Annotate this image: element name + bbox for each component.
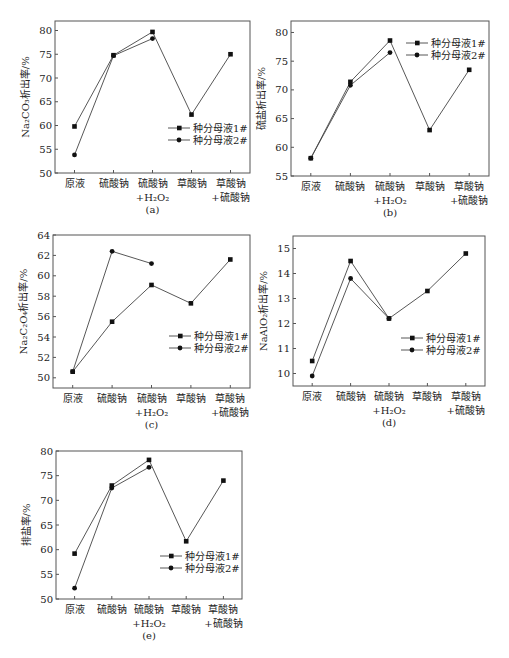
data-point-square [149, 283, 154, 288]
x-tick-label: 硫酸钠 [99, 177, 129, 189]
x-tick-label: 硫酸钠 [97, 603, 127, 615]
legend-marker-square [178, 334, 183, 339]
y-tick-label: 65 [40, 520, 53, 531]
legend-marker-circle [178, 346, 183, 351]
data-point-square [189, 301, 194, 306]
y-tick-label: 12 [277, 318, 290, 329]
y-tick-label: 14 [277, 268, 290, 279]
panel-label: (b) [383, 207, 397, 218]
data-point-square [464, 251, 469, 256]
chart-panel-c: 5052545658606264原液硫酸钠硫酸钠+H₂O₂草酸钠草酸钠+硫酸钠(… [17, 230, 250, 431]
data-point-circle [348, 276, 353, 281]
y-tick-label: 60 [40, 544, 53, 555]
y-tick-label: 65 [39, 96, 52, 107]
data-point-square [72, 551, 77, 556]
x-tick-label: 草酸钠 [215, 392, 245, 404]
x-tick-label: 原液 [65, 177, 85, 189]
x-tick-label: 草酸钠 [415, 180, 445, 192]
chart-panel-e: 50556065707580原液硫酸钠硫酸钠+H₂O₂草酸钠草酸钠+硫酸钠(e)… [20, 446, 243, 642]
data-point-circle [110, 249, 115, 254]
x-tick-sublabel: +硫酸钠 [204, 617, 242, 629]
chart-panel-a: 50556065707580原液硫酸钠硫酸钠+H₂O₂草酸钠草酸钠+硫酸钠(a)… [19, 21, 250, 215]
y-tick-label: 15 [277, 243, 290, 254]
y-axis-label: 硫盐析出率/% [255, 67, 267, 130]
plot-frame [53, 235, 250, 388]
y-tick-label: 50 [37, 372, 50, 383]
panel-label: (a) [146, 204, 160, 215]
y-tick-label: 55 [275, 171, 288, 182]
figure-svg: 50556065707580原液硫酸钠硫酸钠+H₂O₂草酸钠草酸钠+硫酸钠(a)… [0, 0, 509, 658]
legend-label: 种分母液1# [194, 330, 249, 342]
y-tick-label: 75 [275, 56, 288, 67]
figure-canvas: 50556065707580原液硫酸钠硫酸钠+H₂O₂草酸钠草酸钠+硫酸钠(a)… [0, 0, 509, 658]
data-point-square [228, 52, 233, 57]
y-tick-label: 60 [275, 142, 288, 153]
legend-marker-circle [169, 566, 174, 571]
data-point-circle [72, 586, 77, 591]
x-tick-sublabel: +H₂O₂ [132, 618, 165, 629]
y-tick-label: 65 [275, 113, 288, 124]
series-line-1 [75, 32, 231, 127]
y-tick-label: 50 [40, 594, 53, 605]
panel-label: (c) [145, 419, 159, 430]
x-tick-label: 草酸钠 [451, 390, 481, 402]
y-tick-label: 11 [277, 343, 290, 354]
data-point-circle [72, 153, 77, 158]
y-tick-label: 13 [277, 293, 290, 304]
y-tick-label: 10 [277, 368, 290, 379]
x-tick-label: 硫酸钠 [374, 390, 404, 402]
x-tick-label: 硫酸钠 [137, 392, 167, 404]
legend-label: 种分母液1# [431, 37, 486, 49]
data-point-circle [109, 486, 114, 491]
legend-label: 种分母液1# [193, 122, 248, 134]
legend-label: 种分母液1# [426, 332, 481, 344]
series-line-2 [312, 279, 389, 377]
legend-label: 种分母液2# [193, 134, 248, 146]
data-point-circle [388, 50, 393, 55]
y-tick-label: 80 [39, 25, 52, 36]
y-tick-label: 54 [37, 332, 50, 343]
x-tick-sublabel: +H₂O₂ [135, 407, 168, 418]
y-tick-label: 62 [37, 250, 50, 261]
y-tick-label: 58 [37, 291, 50, 302]
legend-label: 种分母液2# [194, 342, 249, 354]
data-point-square [310, 359, 315, 364]
x-tick-sublabel: +硫酸钠 [447, 404, 485, 416]
plot-frame [56, 451, 242, 599]
x-tick-label: 硫酸钠 [134, 603, 164, 615]
series-line-1 [75, 460, 224, 554]
y-tick-label: 60 [39, 120, 52, 131]
legend-marker-circle [415, 53, 420, 58]
y-tick-label: 52 [37, 352, 50, 363]
series-line-2 [311, 53, 390, 159]
data-point-square [150, 30, 155, 35]
data-point-square [147, 458, 152, 463]
data-point-square [348, 259, 353, 264]
y-tick-label: 56 [37, 311, 50, 322]
x-tick-label: 原液 [63, 392, 83, 404]
x-tick-label: 草酸钠 [216, 177, 246, 189]
y-tick-label: 55 [39, 144, 52, 155]
x-tick-sublabel: +硫酸钠 [211, 191, 249, 203]
y-axis-label: NaAlO₂析出率/% [257, 271, 269, 351]
data-point-square [189, 112, 194, 117]
data-point-circle [150, 36, 155, 41]
y-axis-label: Na₂C₂O₄析出率/% [17, 269, 29, 354]
y-tick-label: 60 [37, 270, 50, 281]
series-line-1 [73, 259, 231, 371]
x-tick-label: 硫酸钠 [336, 390, 366, 402]
y-tick-label: 70 [40, 495, 53, 506]
data-point-square [221, 478, 226, 483]
data-point-square [427, 128, 432, 133]
legend-label: 种分母液2# [185, 562, 240, 574]
legend-marker-square [410, 336, 415, 341]
legend-marker-square [169, 554, 174, 559]
y-tick-label: 64 [37, 230, 50, 241]
y-tick-label: 70 [275, 84, 288, 95]
y-tick-label: 70 [39, 73, 52, 84]
x-tick-label: 草酸钠 [176, 392, 206, 404]
series-line-2 [73, 251, 152, 371]
data-point-square [388, 38, 393, 43]
x-tick-label: 原液 [301, 180, 321, 192]
data-point-square [72, 124, 77, 129]
